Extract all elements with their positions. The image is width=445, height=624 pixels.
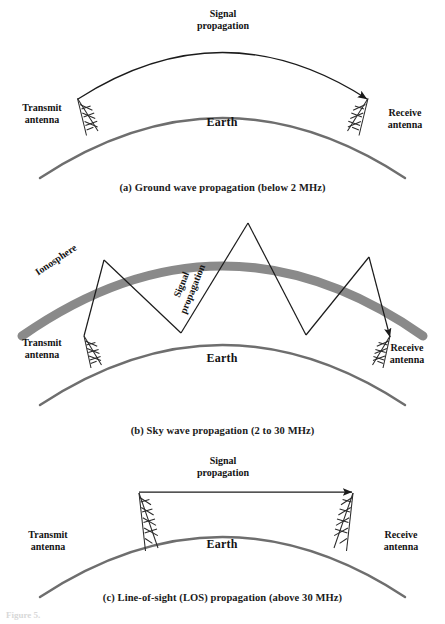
transmit-antenna-tower — [78, 99, 99, 136]
transmit-antenna-label-a: Transmit antenna — [6, 102, 78, 126]
receive-antenna-tower — [334, 493, 353, 551]
panel-ground-wave: Signal propagation Transmit antenna Rece… — [0, 0, 445, 205]
earth-label-b: Earth — [182, 351, 262, 365]
caption-panel-a: (a) Ground wave propagation (below 2 MHz… — [0, 182, 445, 193]
ionosphere-band — [22, 266, 423, 336]
receive-antenna-label-a: Receive antenna — [370, 107, 440, 131]
panel-sky-wave: Ionosphere Signal propagation Transmit a… — [0, 205, 445, 427]
signal-path-arc — [78, 53, 367, 100]
propagation-figure: Signal propagation Transmit antenna Rece… — [0, 0, 445, 624]
transmit-antenna-tower — [139, 493, 158, 551]
receive-antenna-label-c: Receive antenna — [366, 529, 436, 553]
receive-antenna-label-b: Receive antenna — [372, 342, 442, 366]
sky-wave-final-ray — [369, 257, 390, 337]
transmit-antenna-tower — [84, 336, 102, 368]
caption-panel-c: (c) Line-of-sight (LOS) propagation (abo… — [0, 592, 445, 603]
earth-label-a: Earth — [182, 115, 262, 129]
earth-label-c: Earth — [182, 537, 262, 551]
signal-propagation-label-a: Signal propagation — [168, 8, 278, 32]
receive-antenna-tower — [348, 99, 369, 136]
transmit-antenna-label-c: Transmit antenna — [12, 529, 84, 553]
transmit-antenna-label-b: Transmit antenna — [6, 337, 78, 361]
figure-footer-artifact: Figure 5. — [6, 610, 40, 620]
signal-propagation-label-c: Signal propagation — [168, 455, 278, 479]
panel-b-drawing — [0, 205, 445, 427]
